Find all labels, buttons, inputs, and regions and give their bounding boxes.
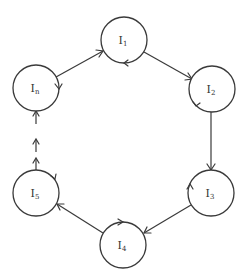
edge-I5-to-In xyxy=(33,111,39,170)
node-I1: I1 xyxy=(101,17,147,66)
diagram-svg: I1 I2 I3 I4 I5 In xyxy=(0,0,248,279)
node-In: In xyxy=(13,65,62,111)
edge-I3-to-I4 xyxy=(144,205,191,233)
edge-In-to-I1 xyxy=(56,50,103,77)
node-I2: I2 xyxy=(189,66,235,112)
node-I3: I3 xyxy=(187,170,234,216)
edge-I4-to-I5 xyxy=(57,204,103,233)
cycle-diagram: I1 I2 I3 I4 I5 In xyxy=(0,0,248,279)
node-I5: I5 xyxy=(13,170,59,216)
edge-I2-to-I3 xyxy=(207,112,215,170)
node-I4: I4 xyxy=(100,219,146,268)
edge-I1-to-I2 xyxy=(144,52,192,80)
